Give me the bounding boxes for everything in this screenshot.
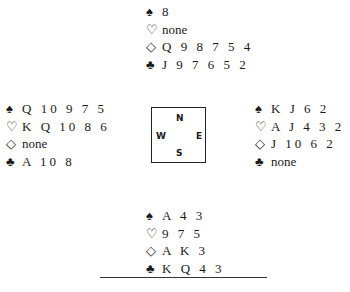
west-clubs: A 10 8: [22, 153, 75, 171]
club-icon: ♣: [6, 153, 22, 171]
heart-icon: ♡: [146, 225, 162, 243]
north-clubs-row: ♣ J 9 7 6 5 2: [146, 56, 253, 74]
south-diamonds-row: ◇ A K 3: [146, 242, 225, 260]
spade-icon: ♠: [6, 100, 22, 118]
south-spades-row: ♠ A 4 3: [146, 207, 225, 225]
west-diamonds-row: ◇ none: [6, 135, 110, 153]
west-hearts: K Q 10 8 6: [22, 118, 110, 136]
south-clubs: K Q 4 3: [162, 260, 225, 278]
club-icon: ♣: [255, 153, 271, 171]
north-diamonds: Q 9 8 7 5 4: [162, 38, 253, 56]
horizontal-divider: [100, 277, 267, 278]
north-hearts-row: ♡ none: [146, 21, 253, 39]
south-clubs-row: ♣ K Q 4 3: [146, 260, 225, 278]
compass-west-label: W: [156, 131, 166, 141]
east-hand: ♠ K J 6 2 ♡ A J 4 3 2 ◇ J 10 6 2 ♣ none: [255, 100, 344, 170]
north-diamonds-row: ◇ Q 9 8 7 5 4: [146, 38, 253, 56]
north-spades-row: ♠ 8: [146, 3, 253, 21]
diamond-icon: ◇: [255, 135, 271, 153]
west-hand: ♠ Q 10 9 7 5 ♡ K Q 10 8 6 ◇ none ♣ A 10 …: [6, 100, 110, 170]
diamond-icon: ◇: [6, 135, 22, 153]
east-hearts: A J 4 3 2: [271, 118, 344, 136]
compass-box: N W E S: [151, 107, 206, 163]
club-icon: ♣: [146, 56, 162, 74]
heart-icon: ♡: [255, 118, 271, 136]
compass-south-label: S: [176, 148, 182, 158]
spade-icon: ♠: [255, 100, 271, 118]
east-hearts-row: ♡ A J 4 3 2: [255, 118, 344, 136]
heart-icon: ♡: [146, 21, 162, 39]
west-spades: Q 10 9 7 5: [22, 100, 107, 118]
east-spades-row: ♠ K J 6 2: [255, 100, 344, 118]
south-diamonds: A K 3: [162, 242, 208, 260]
east-clubs-row: ♣ none: [255, 153, 344, 171]
east-clubs: none: [271, 153, 296, 171]
west-spades-row: ♠ Q 10 9 7 5: [6, 100, 110, 118]
east-diamonds-row: ◇ J 10 6 2: [255, 135, 344, 153]
heart-icon: ♡: [6, 118, 22, 136]
north-hand: ♠ 8 ♡ none ◇ Q 9 8 7 5 4 ♣ J 9 7 6 5 2: [146, 3, 253, 73]
diamond-icon: ◇: [146, 38, 162, 56]
compass-east-label: E: [196, 131, 202, 141]
south-hand: ♠ A 4 3 ♡ 9 7 5 ◇ A K 3 ♣ K Q 4 3: [146, 207, 225, 277]
north-spades: 8: [162, 3, 172, 21]
west-clubs-row: ♣ A 10 8: [6, 153, 110, 171]
spade-icon: ♠: [146, 207, 162, 225]
diamond-icon: ◇: [146, 242, 162, 260]
south-hearts-row: ♡ 9 7 5: [146, 225, 225, 243]
east-spades: K J 6 2: [271, 100, 329, 118]
north-clubs: J 9 7 6 5 2: [162, 56, 249, 74]
club-icon: ♣: [146, 260, 162, 278]
west-diamonds: none: [22, 135, 47, 153]
south-hearts: 9 7 5: [162, 225, 203, 243]
compass-north-label: N: [176, 113, 184, 123]
south-spades: A 4 3: [162, 207, 205, 225]
spade-icon: ♠: [146, 3, 162, 21]
west-hearts-row: ♡ K Q 10 8 6: [6, 118, 110, 136]
north-hearts: none: [162, 21, 187, 39]
east-diamonds: J 10 6 2: [271, 135, 336, 153]
